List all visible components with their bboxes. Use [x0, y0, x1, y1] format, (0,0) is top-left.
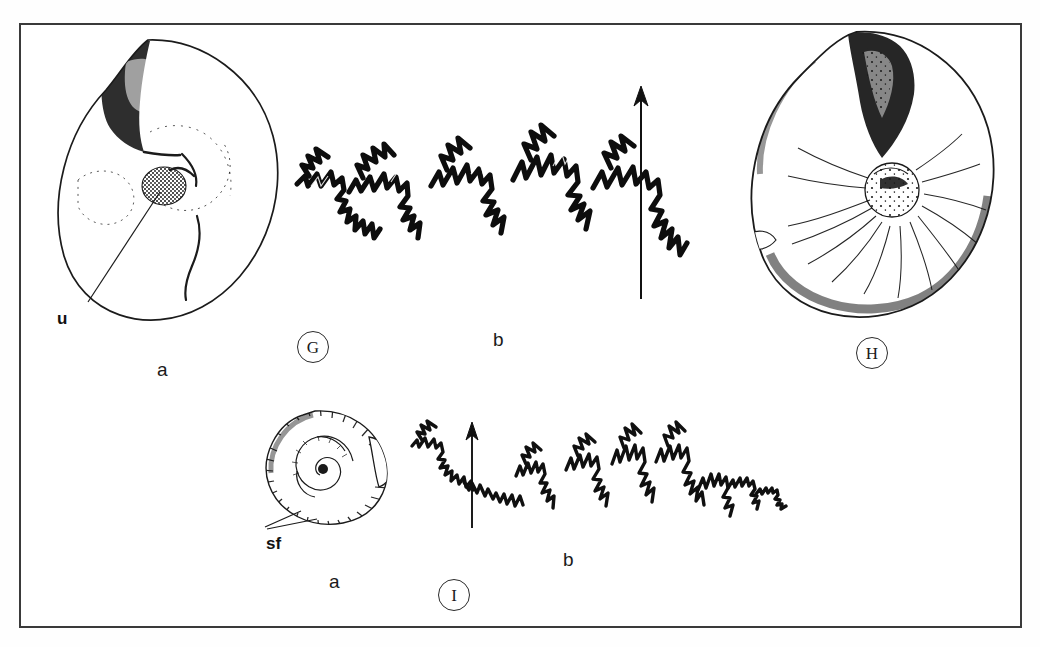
label-g-part-a: a — [157, 360, 168, 379]
figure-h-shell — [744, 24, 1006, 324]
figure-i-part-a-shell — [257, 407, 407, 532]
figure-g-part-a-shell — [52, 28, 297, 328]
label-i-part-b: b — [563, 550, 574, 569]
figure-g-part-b-suture — [291, 56, 679, 316]
figure-plate: u a — [0, 0, 1040, 647]
label-g-part-b: b — [493, 330, 504, 349]
label-i-part-a: a — [329, 572, 340, 591]
label-umbilicus: u — [57, 310, 67, 327]
figure-label-h: H — [856, 337, 888, 369]
label-shell-folds: sf — [266, 535, 281, 552]
figure-i-part-b-suture — [398, 416, 798, 536]
figure-label-g: G — [297, 331, 329, 363]
figure-label-i: I — [438, 579, 470, 611]
